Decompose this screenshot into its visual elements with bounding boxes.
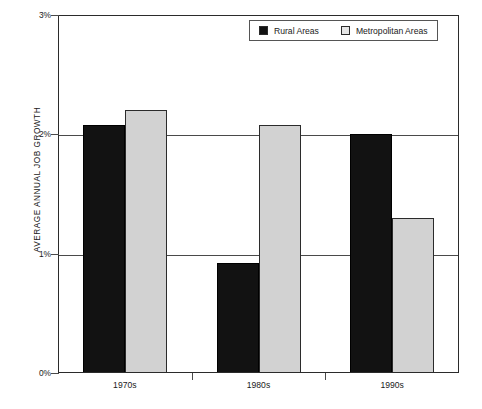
x-axis-tick-label: 1980s [214,380,304,390]
y-axis-tick-label: 1% [17,249,51,259]
bar-1970s-rural [83,125,125,373]
y-axis-tick-mark [51,373,59,374]
chart-legend: Rural Areas Metropolitan Areas [249,20,438,41]
legend-item-metropolitan: Metropolitan Areas [341,26,428,36]
job-growth-bar-chart: AVERAGE ANNUAL JOB GROWTH 0%1%2%3% 1970s… [0,0,482,409]
x-axis-tick-label: 1970s [80,380,170,390]
bar-1980s-metropolitan [259,125,301,373]
x-axis-line [58,372,459,373]
legend-swatch-rural-icon [259,26,268,35]
legend-swatch-metropolitan-icon [341,26,350,35]
legend-item-rural: Rural Areas [259,26,319,36]
legend-label-metropolitan: Metropolitan Areas [356,26,428,36]
x-axis-separator-tick [192,373,193,380]
y-axis-tick-label: 2% [17,129,51,139]
legend-label-rural: Rural Areas [274,26,319,36]
y-axis-tick-label: 0% [17,368,51,378]
x-axis-separator-tick [325,373,326,380]
y-axis-tick-label: 3% [17,10,51,20]
bar-1980s-rural [217,263,259,373]
x-axis-tick-label: 1990s [347,380,437,390]
bar-1990s-metropolitan [392,218,434,373]
bar-1970s-metropolitan [125,110,167,373]
bar-1990s-rural [350,134,392,373]
bars-group [58,15,459,373]
